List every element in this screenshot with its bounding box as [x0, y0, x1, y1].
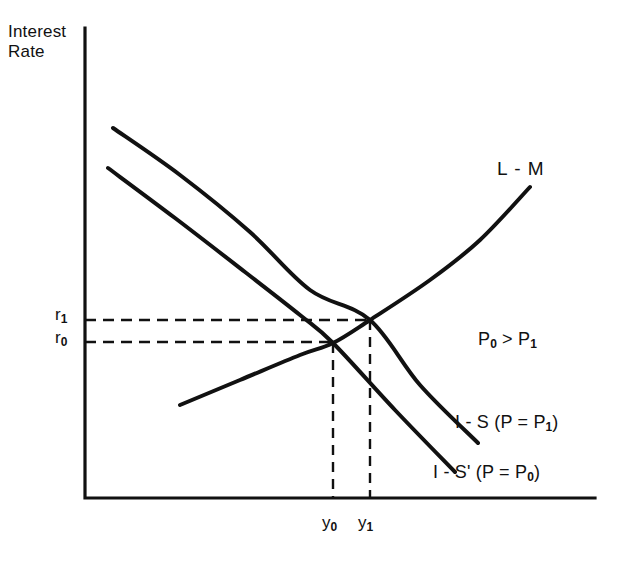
- curve-label-is-p1: I - S (P = P1): [455, 412, 559, 435]
- x-tick-y1-subscript: 1: [367, 520, 374, 534]
- price-inequality-prefix: P: [478, 329, 490, 349]
- y-axis-label: Interest Rate: [8, 22, 66, 62]
- curve-lm: [180, 187, 530, 405]
- x-tick-y0-subscript: 0: [331, 520, 338, 534]
- is-lm-diagram: Interest Rate L - M I - S (P = P1) I - S…: [0, 0, 619, 563]
- y-tick-label-r0: r0: [55, 328, 67, 349]
- price-inequality-operator: > P: [497, 329, 530, 349]
- curve-label-is-p0-suffix: ): [534, 462, 540, 482]
- price-inequality-sub-right: 1: [530, 337, 537, 351]
- y-tick-r0-subscript: 0: [61, 335, 68, 349]
- price-inequality-sub-left: 0: [490, 337, 497, 351]
- y-axis-label-line1: Interest: [8, 22, 66, 42]
- curve-label-lm: L - M: [497, 158, 545, 180]
- x-tick-y1-base: y: [358, 513, 367, 532]
- curve-label-is-p0-subscript: 0: [527, 470, 534, 484]
- curve-label-is-p1-suffix: ): [552, 412, 558, 432]
- price-inequality-annotation: P0 > P1: [478, 329, 537, 352]
- x-tick-label-y0: y0: [322, 513, 337, 534]
- y-axis-label-line2: Rate: [8, 42, 66, 62]
- curve-label-is-p0-prefix: I - S' (P = P: [433, 462, 527, 482]
- x-tick-label-y1: y1: [358, 513, 373, 534]
- curve-label-is-p1-prefix: I - S (P = P: [455, 412, 546, 432]
- curve-label-is-p0: I - S' (P = P0): [433, 462, 540, 485]
- y-tick-r1-subscript: 1: [61, 312, 68, 326]
- x-tick-y0-base: y: [322, 513, 331, 532]
- y-tick-label-r1: r1: [55, 305, 67, 326]
